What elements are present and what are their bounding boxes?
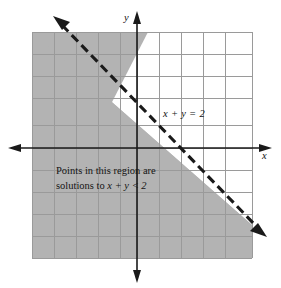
boundary-arrow-upper-left bbox=[53, 16, 70, 30]
y-axis-arrow-up bbox=[133, 11, 141, 24]
y-axis-arrow-down bbox=[133, 270, 141, 283]
region-caption: Points in this region are solutions to x… bbox=[56, 163, 156, 193]
graph-canvas bbox=[0, 0, 281, 288]
y-axis-label: y bbox=[124, 12, 129, 23]
region-caption-prefix: solutions to bbox=[56, 180, 107, 191]
region-caption-line-1: Points in this region are bbox=[56, 163, 156, 178]
region-caption-inequality: x + y < 2 bbox=[107, 180, 146, 191]
inequality-graph-figure: y x x + y = 2 Points in this region are … bbox=[0, 0, 281, 288]
line-equation-label: x + y = 2 bbox=[163, 108, 205, 119]
x-axis-label: x bbox=[262, 150, 267, 161]
boundary-arrow-lower-right bbox=[250, 223, 267, 237]
x-axis-arrow-left bbox=[8, 144, 21, 152]
region-caption-line-2: solutions to x + y < 2 bbox=[56, 178, 156, 193]
line-equation-text: x + y = 2 bbox=[163, 108, 205, 119]
